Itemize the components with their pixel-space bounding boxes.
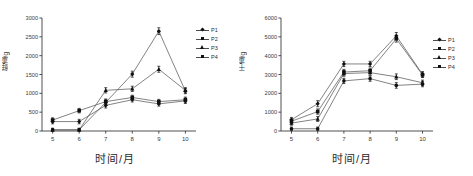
svg-text:0: 0	[274, 128, 277, 134]
legend-item-p2[interactable]: P2	[196, 35, 218, 44]
legend-label-p4: P4	[448, 63, 455, 72]
legend-right: P1 P2 P3 P4	[433, 36, 455, 72]
legend-label-p1: P1	[211, 26, 218, 35]
svg-text:2000: 2000	[26, 53, 38, 59]
legend-marker-triangle-icon	[433, 54, 446, 63]
svg-text:2500: 2500	[26, 34, 38, 40]
svg-text:6: 6	[78, 136, 82, 142]
legend-item-p1[interactable]: P1	[196, 26, 218, 35]
svg-text:6000: 6000	[265, 15, 277, 21]
svg-text:5: 5	[51, 136, 55, 142]
legend-label-p3: P3	[211, 44, 218, 53]
svg-text:9: 9	[395, 136, 399, 142]
legend-label-p1: P1	[448, 36, 455, 45]
legend-marker-square-icon	[433, 45, 446, 54]
svg-text:3000: 3000	[26, 15, 38, 21]
legend-marker-triangle-icon	[196, 44, 209, 53]
svg-text:10: 10	[182, 136, 189, 142]
legend-item-p3[interactable]: P3	[433, 54, 455, 63]
legend-marker-diamond-icon	[433, 36, 446, 45]
legend-item-p2[interactable]: P2	[433, 45, 455, 54]
svg-text:1000: 1000	[265, 109, 277, 115]
legend-item-p4[interactable]: P4	[433, 63, 455, 72]
svg-text:9: 9	[157, 136, 161, 142]
svg-text:2000: 2000	[265, 90, 277, 96]
svg-text:1500: 1500	[26, 72, 38, 78]
legend-left: P1 P2 P3 P4	[196, 26, 218, 62]
x-axis-label-right: 时间/月	[277, 150, 427, 166]
svg-text:500: 500	[29, 109, 38, 115]
legend-item-p4[interactable]: P4	[196, 53, 218, 62]
legend-label-p2: P2	[448, 45, 455, 54]
y-axis-label-left: 鲜重/g	[2, 52, 16, 71]
legend-item-p3[interactable]: P3	[196, 44, 218, 53]
legend-marker-square-icon	[196, 35, 209, 44]
svg-text:5: 5	[290, 136, 294, 142]
svg-text:1000: 1000	[26, 90, 38, 96]
legend-marker-circle-icon	[433, 63, 446, 72]
svg-text:0: 0	[35, 128, 38, 134]
svg-text:7: 7	[104, 136, 108, 142]
legend-label-p2: P2	[211, 35, 218, 44]
chart-panel-left: 0500100015002000250030005678910 鲜重/g 时间/…	[0, 0, 236, 176]
legend-label-p4: P4	[211, 53, 218, 62]
legend-item-p1[interactable]: P1	[433, 36, 455, 45]
svg-text:3000: 3000	[265, 72, 277, 78]
legend-marker-diamond-icon	[196, 26, 209, 35]
svg-text:8: 8	[131, 136, 135, 142]
legend-label-p3: P3	[448, 54, 455, 63]
svg-text:8: 8	[368, 136, 372, 142]
figure-canvas: 0500100015002000250030005678910 鲜重/g 时间/…	[0, 0, 473, 176]
svg-text:10: 10	[419, 136, 426, 142]
svg-text:5000: 5000	[265, 34, 277, 40]
x-axis-label-left: 时间/月	[40, 150, 190, 166]
svg-text:6: 6	[316, 136, 320, 142]
legend-marker-circle-icon	[196, 53, 209, 62]
y-axis-label-right: 干重/g	[239, 52, 253, 71]
chart-panel-right: 01000200030004000500060005678910 干重/g 时间…	[237, 0, 473, 176]
svg-text:7: 7	[342, 136, 346, 142]
svg-text:4000: 4000	[265, 53, 277, 59]
